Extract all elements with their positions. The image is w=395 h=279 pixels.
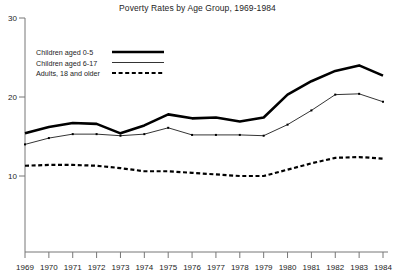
poverty-rates-chart: Poverty Rates by Age Group, 1969-1984 10…: [0, 0, 395, 279]
x-axis-tick-labels: 1969197019711972197319741975197619771978…: [16, 263, 392, 272]
series-marker: [48, 137, 50, 139]
y-axis-tick-labels: 102030: [8, 14, 17, 181]
x-tick-label: 1980: [279, 263, 297, 272]
x-tick-label: 1983: [350, 263, 368, 272]
series-marker: [96, 133, 98, 135]
series-marker: [263, 135, 265, 137]
x-tick-label: 1977: [207, 263, 225, 272]
x-axis-ticks: [25, 252, 383, 258]
chart-legend: Children aged 0-5Children aged 6-17Adult…: [31, 43, 184, 78]
x-tick-label: 1981: [303, 263, 321, 272]
series-marker: [239, 134, 241, 136]
x-tick-label: 1970: [40, 263, 58, 272]
x-tick-label: 1976: [183, 263, 201, 272]
series-marker: [119, 135, 121, 137]
legend-label-1: Children aged 6-17: [36, 59, 97, 68]
x-tick-label: 1982: [326, 263, 344, 272]
series-marker: [143, 133, 145, 135]
chart-plot-area: 102030 196919701971197219731974197519761…: [0, 0, 395, 279]
x-tick-label: 1972: [88, 263, 106, 272]
chart-series-layer: [24, 65, 384, 176]
x-tick-label: 1971: [64, 263, 82, 272]
x-tick-label: 1979: [255, 263, 273, 272]
y-tick-label: 20: [8, 93, 17, 102]
series-line-2: [25, 157, 383, 176]
legend-label-2: Adults, 18 and older: [36, 69, 101, 78]
series-marker: [215, 134, 217, 136]
series-marker: [382, 101, 384, 103]
series-marker: [310, 109, 312, 111]
x-tick-label: 1975: [159, 263, 177, 272]
series-marker: [167, 127, 169, 129]
series-marker: [334, 94, 336, 96]
x-tick-label: 1973: [112, 263, 130, 272]
series-marker: [358, 93, 360, 95]
x-tick-label: 1974: [135, 263, 153, 272]
series-marker: [24, 143, 26, 145]
series-marker: [287, 124, 289, 126]
x-tick-label: 1969: [16, 263, 34, 272]
x-tick-label: 1978: [231, 263, 249, 272]
series-marker: [191, 134, 193, 136]
series-marker: [72, 133, 74, 135]
x-tick-label: 1984: [374, 263, 392, 272]
y-axis-ticks: [19, 18, 25, 176]
legend-label-0: Children aged 0-5: [36, 48, 93, 57]
y-tick-label: 10: [8, 172, 17, 181]
y-tick-label: 30: [8, 14, 17, 23]
